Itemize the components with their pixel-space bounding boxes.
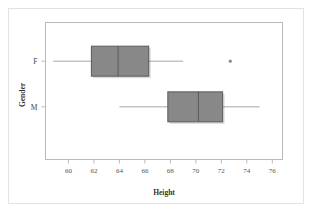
outlier-point-F bbox=[229, 60, 232, 63]
x-tick-label: 76 bbox=[269, 167, 277, 175]
box-F bbox=[91, 46, 148, 76]
box-group-F bbox=[53, 46, 232, 78]
x-tick-label: 60 bbox=[65, 167, 73, 175]
y-category-label-F: F bbox=[33, 57, 37, 66]
x-tick-label: 62 bbox=[90, 167, 98, 175]
y-axis-category-ticks: FM bbox=[31, 57, 46, 112]
x-tick-label: 64 bbox=[116, 167, 124, 175]
x-tick-label: 66 bbox=[141, 167, 149, 175]
plot-frame bbox=[46, 23, 283, 160]
x-tick-label: 74 bbox=[243, 167, 251, 175]
box-group-M bbox=[119, 92, 259, 124]
x-tick-label: 70 bbox=[192, 167, 200, 175]
y-axis-title: Gender bbox=[18, 82, 27, 107]
boxplot-chart: 606264666870727476 FM Height Gender bbox=[0, 0, 313, 214]
x-tick-label: 68 bbox=[167, 167, 175, 175]
box-plot-series bbox=[53, 46, 259, 124]
x-tick-label: 72 bbox=[218, 167, 226, 175]
x-axis-title: Height bbox=[153, 188, 175, 197]
x-axis-ticks: 606264666870727476 bbox=[65, 160, 276, 175]
box-M bbox=[168, 92, 223, 122]
figure-root: 606264666870727476 FM Height Gender bbox=[0, 0, 313, 214]
y-category-label-M: M bbox=[31, 103, 38, 112]
